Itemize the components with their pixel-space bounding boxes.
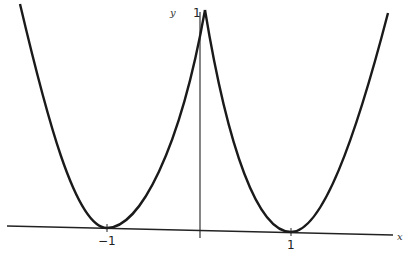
y-axis-label: y (169, 7, 176, 18)
tick-label-neg1: −1 (98, 234, 116, 248)
curve-right-branch (205, 10, 388, 232)
tick-label-y1: 1 (193, 6, 201, 20)
x-axis-label: x (397, 231, 403, 242)
curve-left-branch (20, 4, 205, 228)
function-plot: −1 1 1 y x (0, 0, 408, 259)
tick-label-pos1: 1 (287, 238, 295, 252)
